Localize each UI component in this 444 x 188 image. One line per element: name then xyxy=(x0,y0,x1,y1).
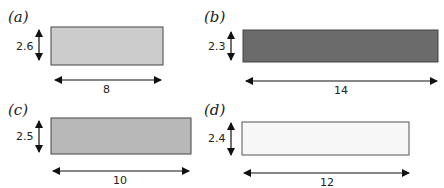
rectangle-c xyxy=(51,118,191,154)
figure-label: (b) xyxy=(204,8,225,26)
rectangle-d xyxy=(242,122,409,155)
rectangles-diagram: (a) 2.6 8 (b) 2.3 14 (c) 2.5 10 (d) 2.4 … xyxy=(0,0,444,188)
width-value: 12 xyxy=(320,176,334,188)
figure-label: (d) xyxy=(204,101,225,119)
width-value: 8 xyxy=(103,83,110,96)
figure-c: (c) 2.5 10 xyxy=(8,101,191,187)
figure-d: (d) 2.4 12 xyxy=(204,101,409,188)
rectangle-a xyxy=(51,27,163,65)
figure-label: (a) xyxy=(8,8,29,26)
height-value: 2.6 xyxy=(16,40,34,53)
height-value: 2.3 xyxy=(208,40,226,53)
width-value: 10 xyxy=(113,174,127,187)
height-value: 2.4 xyxy=(208,132,226,145)
figure-b: (b) 2.3 14 xyxy=(204,8,438,97)
rectangle-b xyxy=(243,30,438,62)
width-value: 14 xyxy=(334,84,348,97)
figure-label: (c) xyxy=(8,101,28,119)
figure-a: (a) 2.6 8 xyxy=(8,8,163,96)
height-value: 2.5 xyxy=(16,130,34,143)
